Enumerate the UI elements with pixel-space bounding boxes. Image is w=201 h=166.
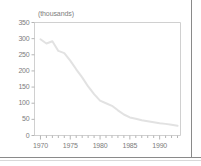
y-tick-label: 350 (10, 19, 30, 26)
chart-figure: (thousands) 050100150200250300350 197019… (0, 0, 201, 166)
x-tick-label: 1975 (56, 142, 84, 149)
y-tick-label: 0 (10, 132, 30, 139)
x-tick-label: 1990 (146, 142, 174, 149)
x-axis-ticks (40, 136, 177, 140)
y-tick-label: 100 (10, 99, 30, 106)
data-series-lines (40, 39, 177, 126)
y-tick-label: 250 (10, 51, 30, 58)
x-tick-label: 1985 (116, 142, 144, 149)
y-tick-label: 150 (10, 83, 30, 90)
x-tick-label: 1980 (86, 142, 114, 149)
y-tick-label: 200 (10, 67, 30, 74)
plot-frame (35, 23, 181, 136)
y-tick-label: 50 (10, 115, 30, 122)
series-line-1 (40, 39, 177, 126)
y-tick-label: 300 (10, 35, 30, 42)
x-tick-label: 1970 (26, 142, 54, 149)
